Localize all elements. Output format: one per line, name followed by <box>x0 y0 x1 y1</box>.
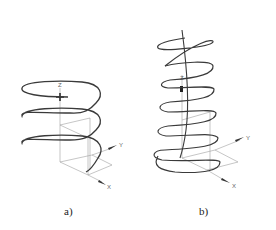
x-arrow-icon <box>98 180 106 185</box>
x-axis-label: X <box>107 184 111 190</box>
z-axis-label: Z <box>58 82 62 88</box>
figure-a: Y X Z <box>22 81 123 190</box>
diagram-canvas: Y X Z Y X Z <box>0 0 276 230</box>
axis-arrows-b: Y X Z <box>180 75 250 189</box>
y-axis-label: Y <box>246 135 250 141</box>
x-arrow-icon <box>221 178 230 183</box>
caption-a: a) <box>64 205 73 217</box>
y-arrow-icon <box>108 145 117 150</box>
caption-b: b) <box>199 205 208 217</box>
figure-b: Y X Z <box>154 30 250 189</box>
z-axis-label: Z <box>180 75 184 81</box>
y-arrow-icon <box>235 137 244 142</box>
z-marker-icon <box>180 86 183 92</box>
axes-frame-b <box>182 75 240 180</box>
x-axis-label: X <box>232 183 236 189</box>
helix-curve-a <box>22 81 101 172</box>
y-axis-label: Y <box>119 142 123 148</box>
